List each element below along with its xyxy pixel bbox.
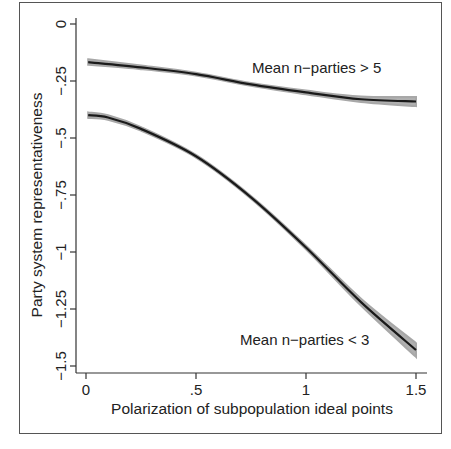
x-axis-title: Polarization of subpopulation ideal poin… [111, 400, 393, 417]
y-axis-title: Party system representativeness [28, 92, 45, 317]
confidence-band-lower-series [88, 112, 416, 356]
annotation-upper-series: Mean n−parties > 5 [252, 59, 381, 76]
y-tick-label: 0 [52, 20, 69, 28]
x-tick-label: 1 [302, 381, 310, 398]
confidence-bands [88, 59, 416, 357]
y-tick-label: −1.5 [52, 351, 69, 381]
line-mean-nparties-lt-3 [88, 115, 416, 350]
x-tick-label: 1.5 [406, 381, 427, 398]
y-tick-label: −1 [52, 243, 69, 260]
y-tick-label: −.25 [52, 66, 69, 96]
y-tick-label: −.75 [52, 180, 69, 210]
x-axis-ticks: 0.511.5 [82, 373, 427, 398]
y-tick-label: −.5 [52, 127, 69, 148]
annotation-lower-series: Mean n−parties < 3 [240, 331, 369, 348]
x-tick-label: 0 [82, 381, 90, 398]
y-axis-ticks: 0−.25−.5−.75−1−1.25−1.5 [52, 20, 76, 381]
series-lines [88, 62, 416, 350]
y-tick-label: −1.25 [52, 290, 69, 328]
x-tick-label: .5 [190, 381, 203, 398]
chart: 0−.25−.5−.75−1−1.25−1.5 0.511.5 Party sy… [0, 0, 451, 449]
